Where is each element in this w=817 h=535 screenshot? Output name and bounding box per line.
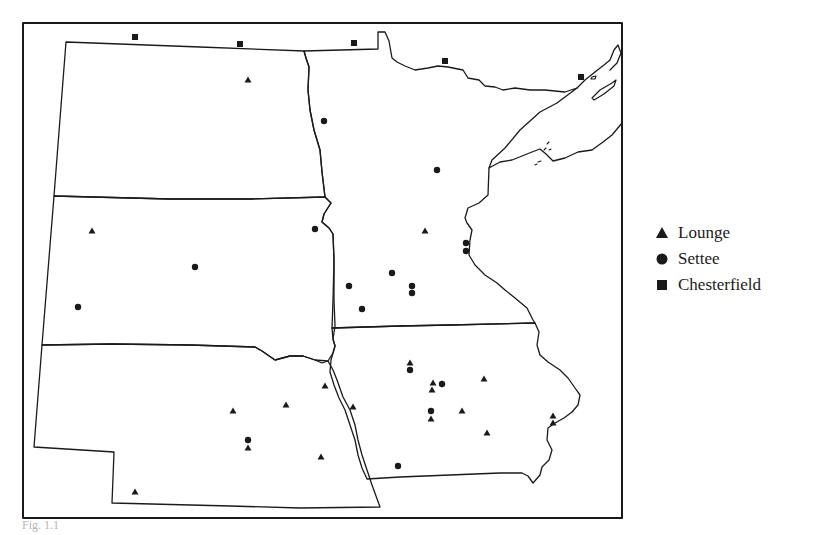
lounge-marker [550,413,557,419]
lounge-marker [422,228,429,234]
points-layer [75,34,584,495]
legend-label-lounge: Lounge [678,223,730,243]
lounge-marker [484,430,491,436]
settee-marker [312,226,318,232]
lounge-marker [481,376,488,382]
lounge-marker [350,404,357,410]
settee-marker [409,283,415,289]
settee-marker [389,270,395,276]
lounge-marker [459,408,466,414]
state-north-dakota [54,42,325,199]
legend-label-chesterfield: Chesterfield [678,275,761,295]
settee-marker [245,437,251,443]
settee-marker [192,264,198,270]
lounge-marker [407,360,414,366]
lake-superior-south-shore [489,123,622,168]
state-iowa [330,323,580,483]
settee-marker [321,118,327,124]
settee-marker [346,283,352,289]
lounge-marker [430,380,437,386]
lounge-marker [132,489,139,495]
state-south-dakota [42,196,335,363]
legend-label-settee: Settee [678,249,720,269]
triangle-icon [655,226,669,240]
apostle-islands [535,142,551,165]
settee-marker [395,463,401,469]
legend-item-settee: Settee [655,246,815,272]
settee-marker [409,290,415,296]
lounge-marker [429,387,436,393]
chesterfield-marker [237,41,243,47]
square-icon [655,278,669,292]
settee-marker [463,248,469,254]
lounge-marker [322,383,329,389]
chesterfield-marker [351,40,357,46]
chesterfield-marker [442,58,448,64]
lounge-marker [89,228,96,234]
figure-caption: Fig. 1.1 [22,518,59,533]
circle-icon [655,252,669,266]
small-island [591,76,596,79]
map-legend: Lounge Settee Chesterfield [655,220,815,298]
state-minnesota [304,32,577,328]
settee-marker [439,381,445,387]
settee-marker [428,408,434,414]
lounge-marker [245,77,252,83]
lounge-marker [245,445,252,451]
map-frame [23,23,622,518]
state-nebraska [34,344,380,508]
legend-item-chesterfield: Chesterfield [655,272,815,298]
settee-marker [359,306,365,312]
lounge-marker [318,454,325,460]
settee-marker [434,167,440,173]
lounge-marker [283,402,290,408]
chesterfield-marker [132,34,138,40]
settee-marker [75,304,81,310]
settee-marker [407,367,413,373]
lounge-marker [230,408,237,414]
lounge-marker [428,416,435,422]
map-canvas [0,0,640,535]
isle-royale [592,80,616,100]
chesterfield-marker [578,74,584,80]
legend-item-lounge: Lounge [655,220,815,246]
settee-marker [463,240,469,246]
distribution-map [0,0,640,535]
